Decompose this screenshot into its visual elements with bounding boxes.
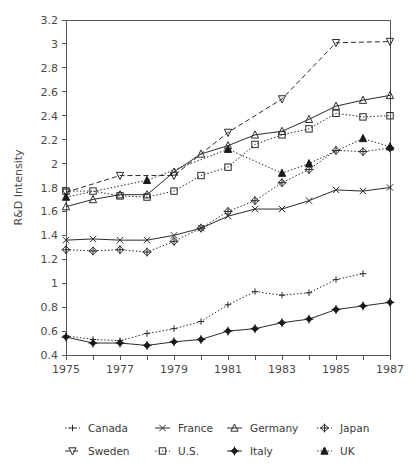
data-point-marker-diamond-filled (224, 327, 233, 336)
data-point-marker-diamond-filled (116, 339, 125, 348)
rd-intensity-line-chart: 0.40.60.811.21.41.61.822.22.42.62.833.21… (0, 0, 416, 472)
series-line (66, 42, 390, 193)
y-tick-label: 2 (51, 158, 58, 171)
series-line (66, 113, 390, 197)
data-point-marker-diamond-filled (359, 301, 368, 310)
legend-label: Sweden (88, 445, 130, 457)
data-point-marker-diamond-open (332, 146, 341, 155)
legend-label: UK (340, 445, 356, 457)
y-tick-label: 1.6 (41, 205, 59, 218)
series-line (66, 302, 390, 345)
data-point-marker-diamond-open (62, 245, 71, 254)
data-point-marker-plus (279, 292, 285, 298)
legend-item-canada[interactable]: Canada (65, 422, 128, 434)
data-point-marker-diamond-filled (197, 335, 206, 344)
legend-marker-diamond-filled (230, 447, 239, 456)
series-canada (63, 270, 366, 343)
legend-marker-diamond-open (320, 424, 329, 433)
data-point-marker-diamond-filled (305, 315, 314, 324)
legend-item-japan[interactable]: Japan (317, 422, 369, 434)
legend-item-sweden[interactable]: Sweden (65, 445, 130, 457)
y-tick-label: 1.8 (41, 182, 59, 195)
y-tick-label: 3.2 (41, 14, 59, 27)
legend-item-uk[interactable]: UK (317, 445, 356, 457)
legend-label: Germany (250, 422, 298, 434)
y-tick-label: 2.2 (41, 134, 59, 147)
data-point-marker-plus (360, 270, 366, 276)
y-tick-label: 0.8 (41, 301, 59, 314)
legend-item-italy[interactable]: Italy (227, 445, 273, 457)
data-point-marker-plus (144, 330, 150, 336)
data-point-marker-plus (171, 325, 177, 331)
y-tick-label: 0.6 (41, 325, 59, 338)
data-point-marker-diamond-open (89, 247, 98, 256)
data-point-marker-diamond-filled (143, 341, 152, 350)
data-point-marker-diamond-filled (278, 318, 287, 327)
data-point-marker-triangle-filled (143, 176, 150, 183)
x-tick-label: 1977 (106, 363, 134, 376)
data-point-marker-diamond-filled (170, 337, 179, 346)
y-tick-label: 2.8 (41, 62, 59, 75)
y-tick-label: 1.2 (41, 253, 59, 266)
data-point-marker-diamond-filled (251, 324, 260, 333)
series-u-s- (63, 110, 393, 200)
data-point-marker-x (306, 197, 312, 203)
y-tick-label: 1 (51, 277, 58, 290)
series-plot-area (62, 38, 395, 350)
legend-marker-plus (69, 425, 75, 431)
data-point-marker-diamond-filled (332, 305, 341, 314)
data-point-marker-diamond-open (116, 245, 125, 254)
series-sweden (62, 38, 393, 196)
series-line (66, 274, 363, 341)
data-point-marker-plus (225, 302, 231, 308)
x-tick-label: 1983 (268, 363, 296, 376)
data-point-marker-diamond-open (251, 196, 260, 205)
legend-label: Japan (339, 422, 369, 434)
legend-label: U.S. (178, 445, 199, 457)
y-tick-label: 1.4 (41, 229, 59, 242)
data-point-marker-plus (333, 276, 339, 282)
data-point-marker-diamond-open (359, 147, 368, 156)
chart-legend: CanadaFranceGermanyJapanSwedenU.S.ItalyU… (65, 422, 369, 457)
axes: 0.40.60.811.21.41.61.822.22.42.62.833.21… (41, 14, 405, 376)
x-tick-label: 1981 (214, 363, 242, 376)
data-point-marker-diamond-open (278, 178, 287, 187)
y-tick-label: 3 (51, 38, 58, 51)
legend-label: Canada (88, 422, 128, 434)
y-axis-title-text: R&D Intensity (12, 149, 25, 226)
data-point-marker-diamond-filled (386, 298, 395, 307)
legend-item-germany[interactable]: Germany (227, 422, 298, 434)
data-point-marker-diamond-open (224, 207, 233, 216)
data-point-marker-triangle-filled (305, 160, 312, 167)
legend-item-france[interactable]: France (155, 422, 213, 434)
x-tick-label: 1975 (52, 363, 80, 376)
y-tick-label: 2.4 (41, 110, 59, 123)
data-point-marker-diamond-filled (62, 333, 71, 342)
legend-label: France (178, 422, 213, 434)
chart-figure: 0.40.60.811.21.41.61.822.22.42.62.833.21… (0, 0, 416, 472)
legend-item-u-s-[interactable]: U.S. (155, 445, 199, 457)
y-axis-title: R&D Intensity (12, 149, 25, 226)
x-tick-label: 1979 (160, 363, 188, 376)
legend-label: Italy (250, 445, 273, 457)
x-tick-label: 1987 (376, 363, 404, 376)
y-tick-label: 2.6 (41, 86, 59, 99)
data-point-marker-plus (198, 318, 204, 324)
data-point-marker-diamond-open (143, 248, 152, 257)
data-point-marker-plus (252, 288, 258, 294)
data-point-marker-plus (306, 290, 312, 296)
x-tick-label: 1985 (322, 363, 350, 376)
y-tick-label: 0.4 (41, 349, 59, 362)
data-point-marker-triangle-filled (359, 134, 366, 141)
